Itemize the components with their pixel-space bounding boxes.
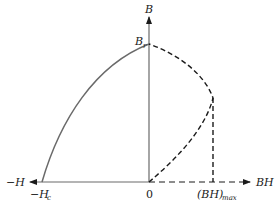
bh-axis-label: BH: [255, 176, 274, 189]
hc-label: −H c: [30, 188, 51, 202]
energy-product-curve: [149, 44, 213, 182]
bhmax-label: (BH) max: [197, 188, 237, 202]
diagram-canvas: B B r −H −H c 0 (BH) max BH: [0, 0, 277, 202]
negative-h-axis-label: −H: [6, 176, 25, 189]
demagnetization-curve: [42, 44, 149, 182]
b-axis-label: B: [144, 3, 153, 16]
br-label: B r: [134, 35, 147, 50]
svg-text:max: max: [222, 194, 237, 202]
svg-text:B: B: [134, 35, 143, 48]
svg-text:c: c: [47, 194, 51, 202]
svg-text:(BH): (BH): [197, 188, 223, 201]
origin-label: 0: [146, 188, 153, 201]
svg-text:r: r: [143, 42, 147, 50]
